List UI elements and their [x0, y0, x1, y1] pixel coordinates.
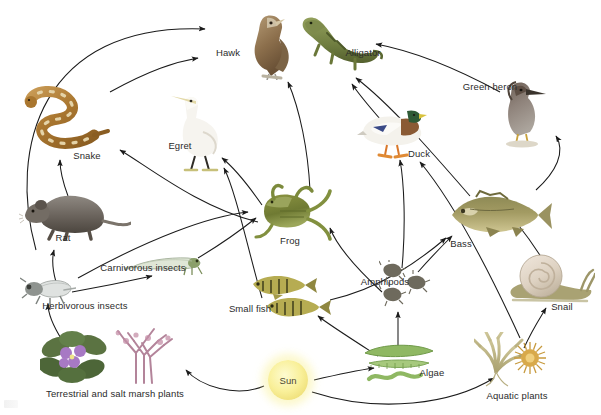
flow-carniv-frog	[198, 218, 256, 258]
rat-illustration	[19, 183, 131, 241]
flow-sun-terrplants	[186, 370, 264, 391]
snake-label: Snake	[73, 150, 100, 161]
alligator-label: Alligator	[345, 47, 380, 58]
rat-label: Rat	[55, 232, 70, 243]
carnivorous-insects-label: Carnivorous insects	[100, 262, 185, 273]
hawk-illustration	[237, 10, 299, 80]
flow-herb-carniv	[72, 276, 152, 292]
food-web-diagram: Hawk Alligator Green heron Snake	[0, 0, 601, 415]
corner-artifact	[4, 400, 18, 408]
snake-illustration	[22, 85, 118, 155]
aquatic-plants-illustration	[474, 332, 546, 388]
flow-snake-hawk	[110, 58, 198, 92]
duck-label: Duck	[408, 148, 430, 159]
sun-label: Sun	[280, 375, 297, 386]
bass-illustration	[446, 187, 554, 243]
amphipods-label: Amphipods	[361, 276, 409, 287]
bass-label: Bass	[450, 238, 472, 249]
alligator-illustration	[297, 11, 383, 73]
hawk-label: Hawk	[216, 47, 240, 58]
snail-illustration	[507, 254, 595, 306]
terrestrial-plants-illustration	[40, 327, 180, 387]
small-fish-label: Small fish	[229, 303, 271, 314]
herbivorous-insects-label: Herbivorous insects	[42, 300, 127, 311]
flow-amphipods-duck	[400, 160, 404, 268]
terrestrial-plants-label: Terrestrial and salt marsh plants	[46, 388, 184, 399]
frog-label: Frog	[280, 235, 300, 246]
algae-illustration	[361, 339, 439, 387]
green-heron-label: Green heron	[463, 81, 517, 92]
egret-label: Egret	[168, 140, 191, 151]
snail-label: Snail	[551, 301, 573, 312]
flow-frog-alligator	[288, 82, 310, 190]
algae-label: Algae	[420, 367, 445, 378]
egret-illustration	[163, 88, 233, 172]
aquatic-plants-label: Aquatic plants	[486, 390, 547, 401]
